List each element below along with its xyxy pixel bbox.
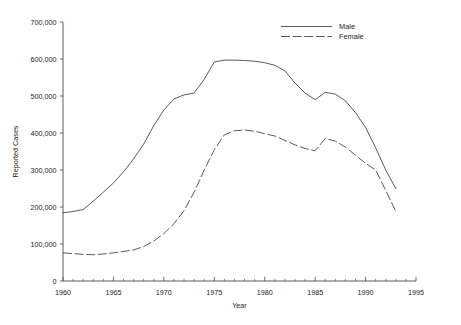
legend-label-male: Male (339, 22, 355, 31)
x-tick-label: 1995 (408, 288, 424, 297)
x-tick-label: 1960 (55, 288, 71, 297)
x-tick-label: 1985 (307, 288, 323, 297)
x-axis-title: Year (232, 301, 247, 310)
series-line-female (63, 130, 396, 255)
y-tick-label: 400,000 (31, 129, 57, 138)
chart-page: 0100,000200,000300,000400,000500,000600,… (0, 0, 461, 325)
y-tick-label: 700,000 (31, 18, 57, 27)
x-tick-label: 1965 (105, 288, 121, 297)
y-tick-label: 500,000 (31, 92, 57, 101)
line-chart: 0100,000200,000300,000400,000500,000600,… (0, 0, 461, 325)
chart-series-lines (63, 60, 396, 255)
x-tick-label: 1975 (206, 288, 222, 297)
y-tick-label: 0 (53, 277, 57, 286)
chart-tick-marks (60, 22, 416, 281)
x-tick-label: 1980 (257, 288, 273, 297)
chart-axes (63, 22, 416, 281)
y-axis-title: Reported Cases (11, 125, 20, 177)
y-tick-label: 600,000 (31, 55, 57, 64)
legend-label-female: Female (339, 32, 364, 41)
x-tick-label: 1990 (358, 288, 374, 297)
y-tick-label: 200,000 (31, 203, 57, 212)
y-tick-label: 100,000 (31, 240, 57, 249)
chart-axis-titles: YearReported Cases (11, 125, 248, 310)
x-tick-label: 1970 (156, 288, 172, 297)
y-tick-label: 300,000 (31, 166, 57, 175)
series-line-male (63, 60, 396, 213)
chart-legend: MaleFemale (281, 22, 364, 41)
